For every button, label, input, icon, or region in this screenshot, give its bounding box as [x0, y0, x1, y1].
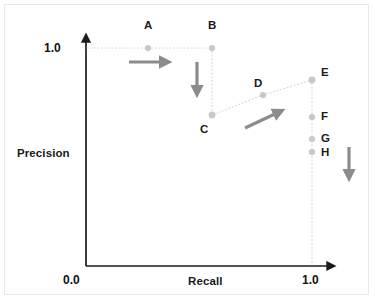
data-point-e [309, 77, 316, 84]
data-point-a [145, 45, 151, 51]
point-label-g: G [321, 132, 330, 144]
data-point-f [309, 114, 315, 120]
precision-recall-diagram: Precision Recall 1.0 0.0 1.0 A B C D E F… [0, 0, 375, 301]
point-label-b: B [208, 19, 216, 31]
point-label-h: H [321, 146, 329, 158]
data-point-b [209, 45, 215, 51]
x-tick-label-1: 1.0 [302, 273, 319, 287]
x-tick-label-0: 0.0 [63, 273, 80, 287]
axis-lines [86, 41, 328, 266]
point-label-f: F [321, 110, 328, 122]
connector-paths [87, 48, 312, 265]
data-point-h [309, 149, 315, 155]
point-label-a: A [144, 19, 152, 31]
connector-c-to-d [212, 95, 263, 115]
annotation-arrows [129, 62, 349, 173]
connector-d-to-e [263, 80, 312, 95]
data-point-g [309, 136, 315, 142]
data-point-d [260, 92, 266, 98]
point-label-c: C [200, 123, 208, 135]
y-tick-label-1: 1.0 [44, 41, 61, 55]
point-label-d: D [254, 77, 262, 89]
point-label-e: E [321, 66, 329, 78]
y-axis-title: Precision [17, 147, 70, 159]
data-point-c [209, 112, 216, 119]
chart-panel: Precision Recall 1.0 0.0 1.0 A B C D E F… [4, 4, 369, 295]
data-points [145, 45, 316, 155]
arrow-up-right-c-to-e-icon [245, 113, 277, 128]
x-axis-title: Recall [188, 275, 222, 287]
